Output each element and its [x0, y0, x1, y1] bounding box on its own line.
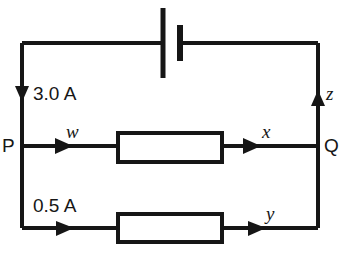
current-label-top-branch: 3.0 A: [33, 84, 76, 103]
circuit-diagram: P Q 3.0 A 0.5 A w x y z: [0, 0, 345, 257]
circuit-schematic-canvas: [0, 0, 345, 257]
current-label-bottom-branch: 0.5 A: [33, 196, 76, 215]
current-label-z: z: [326, 84, 333, 103]
node-label-q: Q: [324, 136, 339, 155]
current-arrow-middle-right-right: [243, 138, 261, 154]
current-arrow-bottom-right-right: [248, 221, 266, 236]
current-arrow-bottom-left-right: [56, 221, 74, 236]
current-label-x: x: [262, 122, 270, 141]
current-arrow-top-branch-down: [15, 86, 29, 102]
current-arrow-right-vertical-up: [311, 90, 325, 106]
resistor-bottom-branch: [118, 214, 222, 242]
resistor-middle-branch: [118, 133, 222, 162]
current-label-w: w: [66, 122, 79, 141]
current-label-y: y: [266, 204, 274, 223]
node-label-p: P: [2, 136, 15, 155]
battery-symbol: [163, 8, 180, 78]
